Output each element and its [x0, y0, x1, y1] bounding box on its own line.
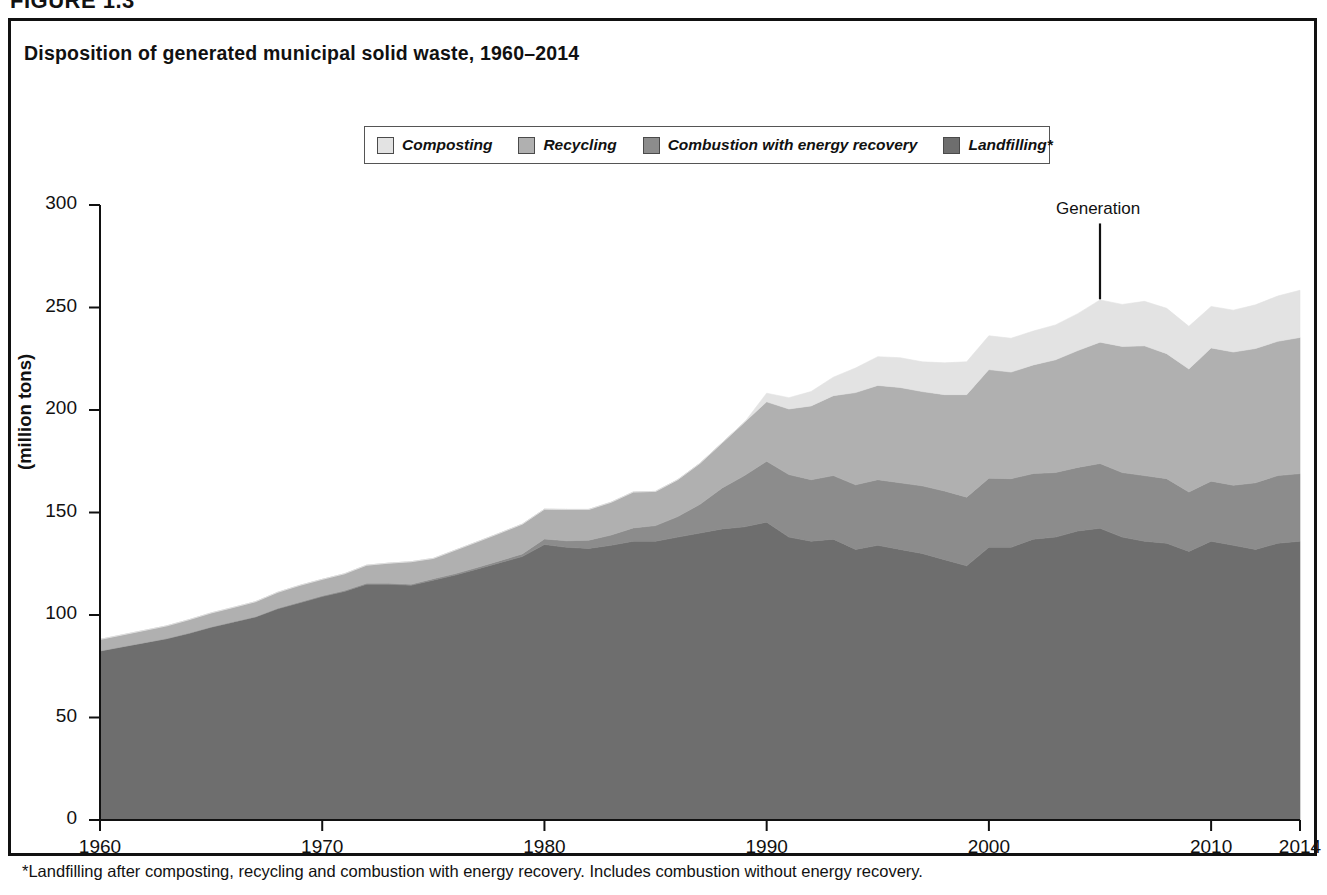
- legend-item-combustion[interactable]: Combustion with energy recovery: [643, 136, 918, 154]
- legend-label-recycling: Recycling: [543, 136, 616, 154]
- y-tick-label-0: 0: [23, 807, 77, 829]
- x-tick-label-1960: 1960: [60, 836, 140, 858]
- y-tick-label-250: 250: [23, 295, 77, 317]
- chart-legend: Composting Recycling Combustion with ene…: [364, 126, 1050, 164]
- x-tick-label-2000: 2000: [949, 836, 1029, 858]
- chart-title: Disposition of generated municipal solid…: [24, 42, 579, 65]
- figure-footnote: *Landfilling after composting, recycling…: [22, 862, 923, 881]
- y-tick-label-100: 100: [23, 602, 77, 624]
- y-tick-label-50: 50: [23, 705, 77, 727]
- legend-swatch-landfilling: [943, 137, 960, 154]
- legend-label-composting: Composting: [402, 136, 492, 154]
- x-tick-label-2014: 2014: [1260, 836, 1327, 858]
- generation-annotation-label: Generation: [1056, 199, 1140, 219]
- legend-label-combustion: Combustion with energy recovery: [668, 136, 918, 154]
- legend-item-recycling[interactable]: Recycling: [518, 136, 616, 154]
- y-tick-label-150: 150: [23, 500, 77, 522]
- legend-swatch-composting: [377, 137, 394, 154]
- legend-swatch-recycling: [518, 137, 535, 154]
- x-tick-label-1980: 1980: [504, 836, 584, 858]
- x-tick-label-1990: 1990: [727, 836, 807, 858]
- y-tick-label-300: 300: [23, 192, 77, 214]
- y-tick-label-200: 200: [23, 397, 77, 419]
- figure-label: FIGURE 1.3: [10, 0, 135, 14]
- legend-label-landfilling: Landfilling*: [968, 136, 1052, 154]
- legend-item-landfilling[interactable]: Landfilling*: [943, 136, 1052, 154]
- legend-swatch-combustion: [643, 137, 660, 154]
- x-tick-label-1970: 1970: [282, 836, 362, 858]
- legend-item-composting[interactable]: Composting: [377, 136, 492, 154]
- x-tick-label-2010: 2010: [1171, 836, 1251, 858]
